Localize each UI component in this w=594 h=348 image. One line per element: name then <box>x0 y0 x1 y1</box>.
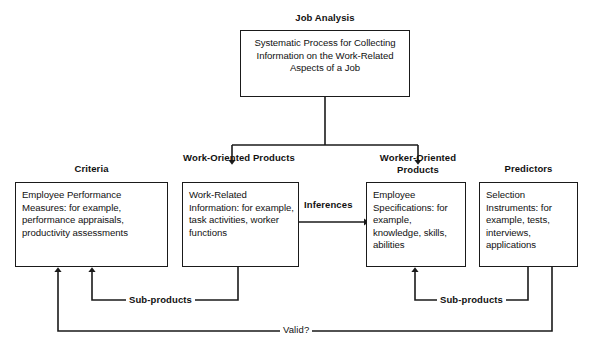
node-title-criteria: Criteria <box>15 163 168 175</box>
edge-label-sub-products-right: Sub-products <box>437 294 506 305</box>
node-title-work-oriented: Work-Oriented Products <box>180 152 298 164</box>
edge-label-inferences: Inferences <box>301 199 356 210</box>
node-box-worker-oriented: Employee Specifications: for example, kn… <box>366 182 466 267</box>
edge-label-valid: Valid? <box>280 324 312 335</box>
node-box-work-oriented: Work-Related Information: for example, t… <box>182 182 299 267</box>
node-title-predictors: Predictors <box>479 163 578 175</box>
node-box-predictors: Selection Instruments: for example, test… <box>479 182 578 267</box>
node-box-job-analysis: Systematic Process for Collecting Inform… <box>240 30 410 97</box>
node-body-criteria: Employee Performance Measures: for examp… <box>22 189 163 239</box>
diagram-canvas: Job Analysis Systematic Process for Coll… <box>0 0 594 348</box>
node-body-worker-oriented: Employee Specifications: for example, kn… <box>373 189 461 252</box>
node-body-predictors: Selection Instruments: for example, test… <box>486 189 573 252</box>
node-title-job-analysis: Job Analysis <box>240 12 410 24</box>
node-box-criteria: Employee Performance Measures: for examp… <box>15 182 168 267</box>
edge-label-sub-products-left: Sub-products <box>126 294 195 305</box>
node-body-job-analysis: Systematic Process for Collecting Inform… <box>245 37 405 75</box>
node-body-work-oriented: Work-Related Information: for example, t… <box>189 189 294 239</box>
node-title-worker-oriented: Worker-Oriented Products <box>364 152 472 175</box>
